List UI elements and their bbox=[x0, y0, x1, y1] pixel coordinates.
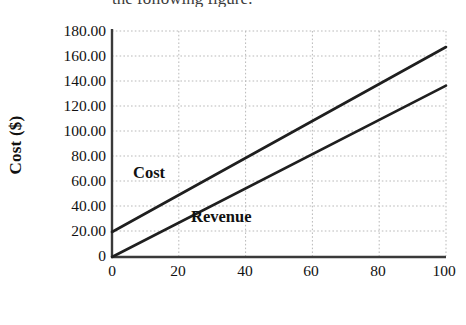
chart-figure: the following figure: Cost ($) 180.00 16… bbox=[0, 0, 466, 325]
horizontal-gridlines bbox=[112, 31, 446, 231]
series-label-revenue: Revenue bbox=[191, 207, 252, 227]
series-label-cost: Cost bbox=[133, 163, 165, 183]
plot-area bbox=[0, 0, 466, 325]
series-line-cost bbox=[112, 47, 446, 232]
